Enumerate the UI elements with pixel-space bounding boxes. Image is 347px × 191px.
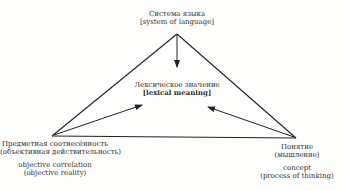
bottom-left-label-ru-1: Предметная соотнесённость	[0, 140, 110, 148]
apex-label: Система языка [system of language]	[127, 10, 227, 26]
bottom-right-label-ru-1: Понятие	[250, 143, 344, 151]
center-label-en: [lexical meaning]	[127, 89, 227, 97]
bottom-left-label-en-1: objective correlation	[0, 161, 110, 169]
apex-label-ru: Система языка	[127, 10, 227, 18]
arrow-right-to-center	[208, 107, 294, 137]
bottom-right-label-en-1: concept	[250, 164, 344, 172]
edge-left-right	[52, 136, 296, 138]
bottom-right-label-en-2: (process of thinking)	[250, 172, 344, 180]
apex-label-en: [system of language]	[127, 18, 227, 26]
center-label: Лексическое значение [lexical meaning]	[127, 81, 227, 97]
bottom-right-label: Понятие (мышление) concept (process of t…	[250, 143, 344, 180]
bottom-left-label: Предметная соотнесённость (объективная д…	[0, 140, 110, 177]
bottom-left-label-en-2: (objective reality)	[0, 169, 110, 177]
bottom-right-label-ru-2: (мышление)	[250, 151, 344, 159]
arrow-left-to-center	[54, 105, 142, 135]
bottom-left-label-ru-2: (объективная действительность)	[0, 148, 110, 156]
